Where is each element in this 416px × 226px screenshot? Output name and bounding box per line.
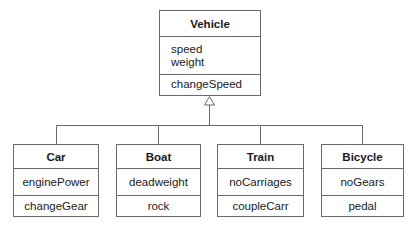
class-train: Train noCarriages coupleCarr xyxy=(217,144,304,217)
attribute: noCarriages xyxy=(229,176,292,188)
class-attributes: noGears xyxy=(322,168,403,195)
attribute: enginePower xyxy=(22,176,89,188)
operation: changeSpeed xyxy=(171,78,260,91)
operation: pedal xyxy=(348,200,376,212)
class-bicycle: Bicycle noGears pedal xyxy=(321,144,404,217)
class-car: Car enginePower changeGear xyxy=(13,144,99,217)
attribute: weight xyxy=(171,56,260,69)
class-attributes: deadweight xyxy=(117,168,200,195)
class-name-text: Train xyxy=(247,151,274,163)
class-name-text: Car xyxy=(46,151,65,163)
operation: changeGear xyxy=(24,200,87,212)
class-boat: Boat deadweight rock xyxy=(116,144,201,217)
class-name: Vehicle xyxy=(160,11,260,36)
class-name: Train xyxy=(218,145,303,168)
attribute: noGears xyxy=(340,176,384,188)
attribute: speed xyxy=(171,43,260,56)
class-operations: coupleCarr xyxy=(218,195,303,216)
class-name-text: Bicycle xyxy=(342,151,382,163)
operation: rock xyxy=(148,200,170,212)
class-operations: pedal xyxy=(322,195,403,216)
class-attributes: enginePower xyxy=(14,168,98,195)
class-name: Car xyxy=(14,145,98,168)
class-attributes: speed weight xyxy=(160,36,260,74)
class-name-text: Boat xyxy=(146,151,172,163)
class-name: Bicycle xyxy=(322,145,403,168)
class-name: Boat xyxy=(117,145,200,168)
generalization-arrowhead-icon xyxy=(205,97,215,106)
class-attributes: noCarriages xyxy=(218,168,303,195)
class-vehicle: Vehicle speed weight changeSpeed xyxy=(159,10,261,96)
class-operations: changeSpeed xyxy=(160,74,260,95)
operation: coupleCarr xyxy=(232,200,288,212)
class-name-text: Vehicle xyxy=(190,18,230,30)
attribute: deadweight xyxy=(129,176,188,188)
class-operations: changeGear xyxy=(14,195,98,216)
class-operations: rock xyxy=(117,195,200,216)
